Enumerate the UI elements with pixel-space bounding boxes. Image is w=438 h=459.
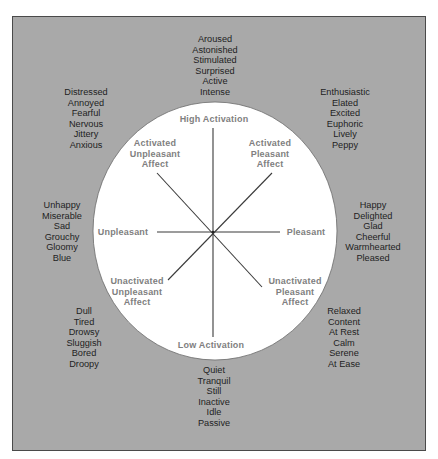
quadrant-label-activated-unpleasant: Activated Unpleasant Affect [130, 138, 181, 170]
affect-word: Warmhearted [345, 242, 400, 253]
affect-word: Miserable [42, 211, 82, 222]
affect-word: Calm [327, 338, 361, 349]
cluster-high-activation: Aroused Astonished Stimulated Surprised … [192, 34, 237, 98]
affect-word: Peppy [320, 140, 370, 151]
affect-word: Anxious [64, 140, 107, 151]
affect-word: Still [198, 386, 231, 397]
affect-word: Aroused [192, 34, 237, 45]
affect-word: At Rest [327, 327, 361, 338]
axis-label-unpleasant: Unpleasant [98, 227, 149, 238]
affect-word: Annoyed [64, 98, 107, 109]
affect-word: Nervous [64, 119, 107, 130]
cluster-activated-pleasant: Enthusiastic Elated Excited Euphoric Liv… [320, 87, 370, 151]
cluster-unpleasant: Unhappy Miserable Sad Grouchy Gloomy Blu… [42, 200, 82, 264]
quadrant-label-unactivated-pleasant: Unactivated Pleasant Affect [268, 276, 321, 308]
cluster-unactivated-pleasant: Relaxed Content At Rest Calm Serene At E… [327, 306, 361, 370]
affect-word: Quiet [198, 365, 231, 376]
axis-label-high-activation: High Activation [180, 114, 249, 125]
quadrant-label-activated-pleasant: Activated Pleasant Affect [249, 138, 291, 170]
axis-origin [212, 231, 215, 234]
affect-word: Relaxed [327, 306, 361, 317]
axis-label-pleasant: Pleasant [287, 227, 326, 238]
affect-word: Tired [66, 317, 101, 328]
affect-word: Inactive [198, 397, 231, 408]
affect-word: Active [192, 76, 237, 87]
affect-word: Unhappy [42, 200, 82, 211]
affect-word: Surprised [192, 66, 237, 77]
affect-word: Stimulated [192, 55, 237, 66]
affect-word: Enthusiastic [320, 87, 370, 98]
affect-word: Astonished [192, 45, 237, 56]
affect-word: Content [327, 317, 361, 328]
affect-word: Fearful [64, 108, 107, 119]
quadrant-label-unactivated-unpleasant: Unactivated Unpleasant Affect [110, 276, 163, 308]
affect-word: Elated [320, 98, 370, 109]
affect-word: Blue [42, 253, 82, 264]
affect-word: Idle [198, 407, 231, 418]
affect-word: Excited [320, 108, 370, 119]
cluster-activated-unpleasant: Distressed Annoyed Fearful Nervous Jitte… [64, 87, 107, 151]
affect-word: Dull [66, 306, 101, 317]
affect-word: Pleased [345, 253, 400, 264]
affect-word: Grouchy [42, 232, 82, 243]
affect-word: Jittery [64, 129, 107, 140]
affect-word: Happy [345, 200, 400, 211]
affect-word: Tranquil [198, 376, 231, 387]
affect-word: Gloomy [42, 242, 82, 253]
affect-word: Glad [345, 221, 400, 232]
affect-word: Passive [198, 418, 231, 429]
affect-word: At Ease [327, 359, 361, 370]
affect-word: Intense [192, 87, 237, 98]
cluster-low-activation: Quiet Tranquil Still Inactive Idle Passi… [198, 365, 231, 429]
affect-word: Lively [320, 129, 370, 140]
affect-word: Droopy [66, 359, 101, 370]
affect-word: Drowsy [66, 327, 101, 338]
affect-word: Sluggish [66, 338, 101, 349]
affect-word: Bored [66, 348, 101, 359]
axis-label-low-activation: Low Activation [178, 340, 244, 351]
affect-word: Euphoric [320, 119, 370, 130]
affect-word: Cheerful [345, 232, 400, 243]
affect-word: Delighted [345, 211, 400, 222]
cluster-unactivated-unpleasant: Dull Tired Drowsy Sluggish Bored Droopy [66, 306, 101, 370]
affect-word: Distressed [64, 87, 107, 98]
affect-word: Sad [42, 221, 82, 232]
affect-word: Serene [327, 348, 361, 359]
cluster-pleasant: Happy Delighted Glad Cheerful Warmhearte… [345, 200, 400, 264]
